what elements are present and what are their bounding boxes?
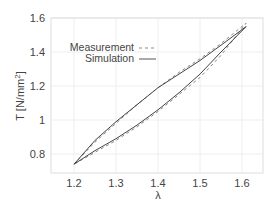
y-ticks: 0.811.21.41.6 <box>30 12 45 160</box>
y-tick-label: 1 <box>39 114 45 126</box>
x-tick-label: 1.4 <box>150 177 165 189</box>
y-tick-label: 0.8 <box>30 148 45 160</box>
y-tick-label: 1.4 <box>30 46 45 58</box>
legend-simulation-label: Simulation <box>85 52 134 64</box>
chart: 1.21.31.41.51.6 0.811.21.41.6 Measuremen… <box>0 0 274 210</box>
x-tick-label: 1.3 <box>108 177 123 189</box>
x-tick-label: 1.2 <box>66 177 81 189</box>
y-tick-label: 1.2 <box>30 80 45 92</box>
x-ticks: 1.21.31.41.51.6 <box>66 177 249 189</box>
y-tick-label: 1.6 <box>30 12 45 24</box>
x-tick-label: 1.6 <box>234 177 249 189</box>
y-axis-label: T [N/mm2] <box>13 71 26 120</box>
x-tick-label: 1.5 <box>192 177 207 189</box>
x-axis-label: λ <box>155 189 161 201</box>
